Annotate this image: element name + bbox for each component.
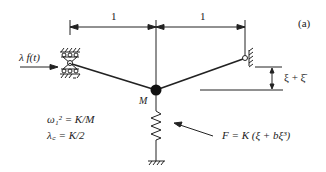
spring-force-label: F = K (ξ + bξ³) — [222, 130, 290, 141]
spring-force-arrow — [174, 122, 213, 136]
right-pin-support — [243, 48, 254, 67]
dimension-lines — [70, 20, 245, 90]
mass-label: M — [139, 96, 147, 106]
omega-equation: ω₁² = K/M — [47, 114, 94, 125]
displacement-label: ξ + ξ̄ — [284, 72, 306, 83]
applied-force-arrow — [20, 65, 58, 70]
spring — [148, 95, 165, 165]
left-roller-support — [60, 48, 80, 78]
applied-force-label: λ f(t) — [19, 52, 40, 63]
dimension-label-left: 1 — [111, 11, 117, 22]
mass-dot — [151, 85, 162, 96]
panel-label: (a) — [298, 18, 310, 29]
dimension-label-right: 1 — [200, 11, 206, 22]
lambda-c-equation: λ꜀ = K/2 — [47, 130, 85, 141]
diagram-canvas — [0, 0, 326, 172]
